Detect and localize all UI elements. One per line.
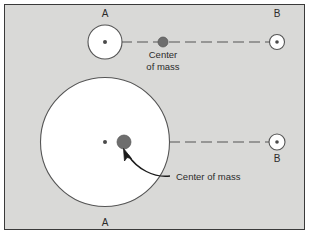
bottom-system: A B Center of mass	[41, 78, 286, 229]
top-system: A B Center of mass	[88, 8, 285, 72]
top-body-b-center-dot	[275, 40, 279, 44]
top-body-a-label: A	[102, 8, 109, 19]
top-body-a-center-dot	[103, 40, 107, 44]
bottom-center-of-mass-dot	[117, 135, 131, 149]
bottom-body-a-center-dot	[103, 140, 107, 144]
bottom-body-b-center-dot	[275, 140, 279, 144]
top-center-of-mass-label-line2: of mass	[146, 61, 180, 72]
top-body-b-label: B	[274, 8, 281, 19]
center-of-mass-figure: A B Center of mass A B Center of mass	[0, 0, 311, 236]
bottom-body-a-label: A	[102, 217, 109, 228]
figure-canvas: A B Center of mass A B Center of mass	[0, 0, 311, 236]
bottom-body-b-label: B	[274, 153, 281, 164]
bottom-center-of-mass-label: Center of mass	[176, 171, 241, 182]
top-center-of-mass-dot	[158, 37, 168, 47]
top-center-of-mass-label-line1: Center	[149, 49, 178, 60]
